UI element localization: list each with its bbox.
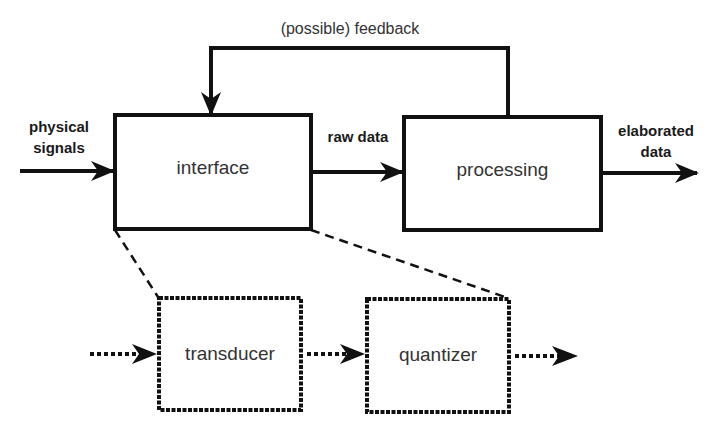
quantizer-label: quantizer	[367, 344, 509, 366]
processing-label: processing	[404, 159, 601, 181]
transducer-label: transducer	[159, 343, 301, 365]
sub-output-arrowhead	[552, 346, 578, 366]
zoom-line-left	[115, 230, 158, 297]
input-label: physical signals	[14, 116, 104, 158]
block-diagram	[0, 0, 720, 428]
feedback-line	[211, 48, 508, 117]
output-label-line2: data	[606, 141, 706, 162]
interface-label: interface	[115, 157, 311, 179]
input-label-line2: signals	[14, 137, 104, 158]
zoom-line-right	[311, 230, 508, 298]
output-label-line1: elaborated	[606, 120, 706, 141]
raw-data-label: raw data	[316, 126, 400, 147]
output-label: elaborated data	[606, 120, 706, 162]
feedback-label: (possible) feedback	[250, 20, 450, 38]
input-label-line1: physical	[14, 116, 104, 137]
